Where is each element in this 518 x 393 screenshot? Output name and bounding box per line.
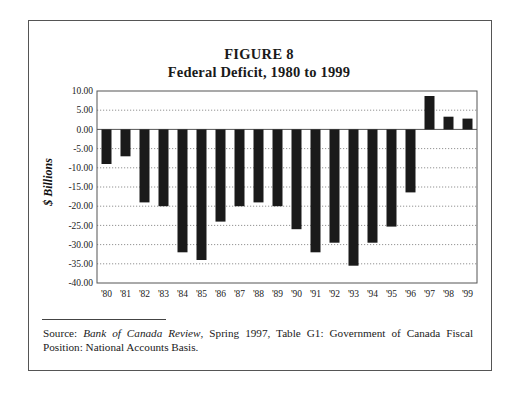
x-tick-label: '91 xyxy=(310,289,321,299)
x-tick-label: '86 xyxy=(215,289,226,299)
x-tick-label: '89 xyxy=(272,289,283,299)
x-tick-label: '88 xyxy=(253,289,264,299)
y-tick-label: -20.00 xyxy=(68,201,93,211)
bar xyxy=(444,117,454,130)
source-prefix: Source: xyxy=(43,327,83,339)
y-tick-label: -30.00 xyxy=(68,240,93,250)
y-tick-label: 5.00 xyxy=(76,105,93,115)
y-axis-ticks: 10.005.000.00-5.00-10.00-15.00-20.00-25.… xyxy=(68,86,93,288)
bar xyxy=(273,129,283,206)
bar xyxy=(406,129,416,192)
bar xyxy=(463,119,473,130)
y-tick-label: -35.00 xyxy=(68,259,93,269)
bar xyxy=(159,129,169,206)
x-tick-label: '80 xyxy=(101,289,112,299)
x-tick-label: '84 xyxy=(177,289,188,299)
x-tick-label: '99 xyxy=(462,289,473,299)
bar xyxy=(235,129,245,206)
x-tick-label: '90 xyxy=(291,289,302,299)
bar xyxy=(216,129,226,221)
bar xyxy=(178,129,188,252)
x-tick-label: '92 xyxy=(329,289,340,299)
footnote-rule xyxy=(42,319,166,320)
y-tick-label: 10.00 xyxy=(72,86,94,96)
bar xyxy=(387,129,397,226)
x-tick-label: '81 xyxy=(120,289,131,299)
x-tick-label: '85 xyxy=(196,289,207,299)
x-tick-label: '96 xyxy=(405,289,416,299)
bar xyxy=(425,96,435,129)
bar xyxy=(311,129,321,252)
x-axis-ticks: '80'81'82'83'84'85'86'87'88'89'90'91'92'… xyxy=(101,289,473,299)
y-axis-label: $ Billions xyxy=(41,158,55,207)
x-tick-label: '93 xyxy=(348,289,359,299)
y-tick-label: -5.00 xyxy=(73,144,93,154)
bar xyxy=(368,129,378,242)
bar xyxy=(121,129,131,156)
gridlines xyxy=(97,110,477,264)
x-tick-label: '98 xyxy=(443,289,454,299)
y-tick-label: -10.00 xyxy=(68,163,93,173)
bar xyxy=(102,129,112,164)
x-tick-label: '87 xyxy=(234,289,245,299)
bar xyxy=(349,129,359,265)
bar xyxy=(140,129,150,202)
bar xyxy=(254,129,264,202)
y-tick-label: -15.00 xyxy=(68,182,93,192)
x-tick-label: '95 xyxy=(386,289,397,299)
x-tick-label: '82 xyxy=(139,289,150,299)
x-tick-label: '97 xyxy=(424,289,435,299)
bars xyxy=(102,96,473,266)
x-tick-label: '83 xyxy=(158,289,169,299)
y-tick-label: -25.00 xyxy=(68,221,93,231)
source-note: Source: Bank of Canada Review, Spring 19… xyxy=(43,326,473,354)
bar xyxy=(197,129,207,260)
y-tick-label: -40.00 xyxy=(68,278,93,288)
x-tick-label: '94 xyxy=(367,289,378,299)
source-publication: Bank of Canada Review xyxy=(83,327,200,339)
bar xyxy=(330,129,340,242)
bar xyxy=(292,129,302,229)
y-tick-label: 0.00 xyxy=(76,125,93,135)
